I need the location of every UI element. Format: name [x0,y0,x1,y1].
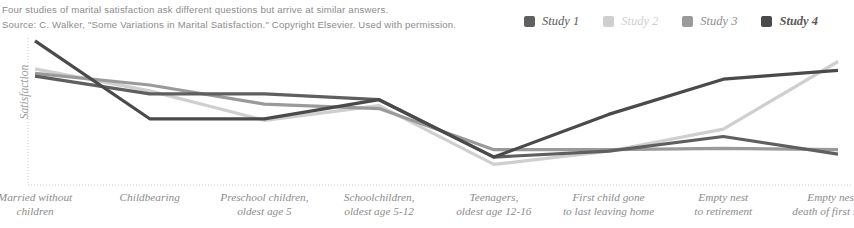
x-axis-label-8: Empty nest todeath of first spouse [778,190,854,218]
x-axis-label-line: oldest age 12-16 [434,204,554,218]
x-axis-label-line: oldest age 5 [204,204,324,218]
x-axis-label-line: Childbearing [90,190,210,204]
data-line-study-1 [35,76,838,157]
x-axis-label-line: Empty nest [663,190,783,204]
x-axis-label-line: Preschool children, [204,190,324,204]
x-axis-label-line: First child gone [549,190,669,204]
x-axis-label-line: Married without [0,190,95,204]
x-axis-label-line: Teenagers, [434,190,554,204]
x-axis-label-5: Teenagers,oldest age 12-16 [434,190,554,218]
data-line-study-4 [35,41,838,157]
y-axis-label: Satisfaction [18,52,30,132]
x-axis-label-1: Married withoutchildren [0,190,95,218]
x-axis-label-line: death of first spouse [778,204,854,218]
x-axis-label-3: Preschool children,oldest age 5 [204,190,324,218]
x-axis-label-6: First child goneto last leaving home [549,190,669,218]
x-axis-label-4: Schoolchildren,oldest age 5-12 [319,190,439,218]
x-axis-label-2: Childbearing [90,190,210,204]
x-axis-label-line: to last leaving home [549,204,669,218]
chart-figure: Four studies of marital satisfaction ask… [0,0,854,228]
x-axis-label-line: oldest age 5-12 [319,204,439,218]
x-axis-label-line: children [0,204,95,218]
x-axis-label-7: Empty nestto retirement [663,190,783,218]
x-axis-labels: Married withoutchildrenChildbearingPresc… [28,190,854,228]
x-axis-label-line: Empty nest to [778,190,854,204]
x-axis-label-line: to retirement [663,204,783,218]
x-axis-label-line: Schoolchildren, [319,190,439,204]
